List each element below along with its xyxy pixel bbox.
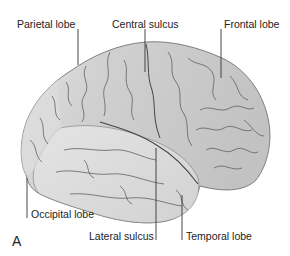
panel-letter: A <box>12 234 21 248</box>
label-frontal-lobe: Frontal lobe <box>224 18 279 30</box>
label-lateral-sulcus: Lateral sulcus <box>89 230 154 242</box>
label-temporal-lobe: Temporal lobe <box>186 230 252 242</box>
label-occipital-lobe: Occipital lobe <box>31 208 94 220</box>
brain-diagram: Parietal lobe Central sulcus Frontal lob… <box>0 0 290 256</box>
label-parietal-lobe: Parietal lobe <box>17 18 75 30</box>
label-central-sulcus: Central sulcus <box>112 18 179 30</box>
